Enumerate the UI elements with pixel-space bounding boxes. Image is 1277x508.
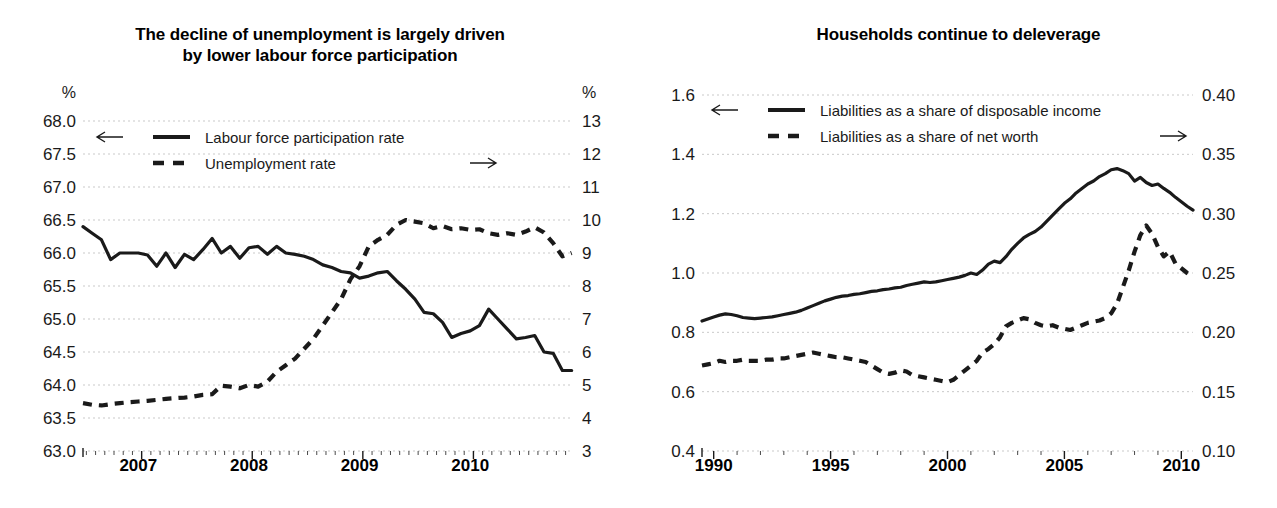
series-line-2 [702,226,1193,383]
right-axis-unit-label: % [582,84,596,101]
left-axis-tick-label: 1.2 [671,205,695,224]
left-axis-tick-label: 66.5 [43,211,76,230]
right-arrow-icon [1160,131,1186,141]
left-axis-tick-label: 65.0 [43,310,76,329]
right-axis-tick-label: 0.35 [1202,145,1235,164]
left-axis-tick-label: 65.5 [43,277,76,296]
figure-page: The decline of unemployment is largely d… [0,0,1277,508]
right-axis-tick-label: 4 [582,409,591,428]
left-axis-tick-label: 0.6 [671,383,695,402]
right-axis-tick-label: 11 [582,178,600,197]
legend-label-2: Unemployment rate [205,155,336,172]
left-axis-tick-label: 67.0 [43,178,76,197]
series-line-2 [83,220,572,405]
left-axis-tick-label: 1.6 [671,86,695,105]
left-axis-tick-label: 68.0 [43,112,76,131]
left-axis-tick-label: 63.5 [43,409,76,428]
legend-label-1: Liabilities as a share of disposable inc… [820,102,1101,119]
left-arrow-icon [97,132,123,142]
right-axis-tick-label: 10 [582,211,601,230]
right-axis-tick-label: 12 [582,145,601,164]
legend-label-1: Labour force participation rate [205,129,404,146]
right-arrow-icon [470,158,496,168]
left-axis-tick-label: 1.4 [671,145,695,164]
series-line-1 [83,227,572,371]
legend-label-2: Liabilities as a share of net worth [820,128,1038,145]
left-axis-tick-label: 64.5 [43,343,76,362]
right-axis-tick-label: 0.15 [1202,383,1235,402]
chart-svg-left: 68.067.567.066.566.065.565.064.564.063.5… [0,0,640,508]
chart-panel-unemployment: The decline of unemployment is largely d… [0,0,640,508]
x-axis-tick-label: 2010 [1162,456,1200,475]
left-axis-unit-label: % [62,84,76,101]
right-axis-tick-label: 7 [582,310,591,329]
x-axis-tick-label: 2007 [119,456,157,475]
chart-panel-households: Households continue to deleverage 1.61.4… [640,0,1277,508]
x-axis-tick-label: 2000 [929,456,967,475]
left-arrow-icon [712,105,738,115]
right-axis-tick-label: 3 [582,442,591,461]
right-axis-tick-label: 6 [582,343,591,362]
right-axis-tick-label: 13 [582,112,601,131]
left-axis-tick-label: 66.0 [43,244,76,263]
left-axis-tick-label: 64.0 [43,376,76,395]
right-axis-tick-label: 0.30 [1202,205,1235,224]
left-axis-tick-label: 63.0 [43,442,76,461]
x-axis-tick-label: 2008 [230,456,268,475]
x-axis-tick-label: 2009 [341,456,379,475]
right-axis-tick-label: 0.40 [1202,86,1235,105]
right-axis-tick-label: 8 [582,277,591,296]
left-axis-tick-label: 67.5 [43,145,76,164]
left-axis-tick-label: 0.4 [671,442,695,461]
chart-svg-right: 1.61.41.21.00.80.60.40.400.350.300.250.2… [640,0,1277,508]
x-axis-tick-label: 1995 [812,456,850,475]
x-axis-tick-label: 2010 [451,456,489,475]
right-axis-tick-label: 0.20 [1202,323,1235,342]
left-axis-tick-label: 1.0 [671,264,695,283]
right-axis-tick-label: 9 [582,244,591,263]
x-axis-tick-label: 2005 [1045,456,1083,475]
left-axis-tick-label: 0.8 [671,323,695,342]
right-axis-tick-label: 5 [582,376,591,395]
x-axis-tick-label: 1990 [695,456,733,475]
right-axis-tick-label: 0.25 [1202,264,1235,283]
right-axis-tick-label: 0.10 [1202,442,1235,461]
